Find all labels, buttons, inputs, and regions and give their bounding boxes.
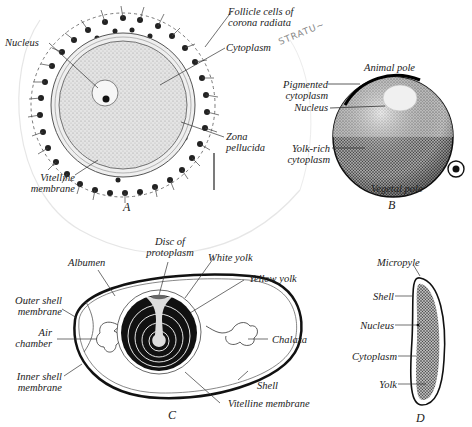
figure-b-egg bbox=[333, 75, 453, 197]
label-zona-pellucida: Zona pellucida bbox=[226, 131, 265, 153]
cytoplasm bbox=[59, 41, 187, 169]
figure-letter-d: D bbox=[416, 411, 425, 426]
figure-letter-a: A bbox=[123, 200, 130, 215]
label-vitelline-membrane-c: Vitelline membrane bbox=[228, 398, 310, 409]
label-outer-shell-membrane: Outer shell membrane bbox=[0, 295, 62, 317]
label-nucleus-a: Nucleus bbox=[5, 37, 39, 48]
label-white-yolk: White yolk bbox=[208, 252, 253, 263]
label-yellow-yolk: Yellow yolk bbox=[249, 273, 297, 284]
label-vitelline-membrane-a: Vitelline membrane bbox=[20, 172, 75, 194]
label-shell-d: Shell bbox=[345, 291, 394, 302]
label-pigmented-cytoplasm: Pigmented cytoplasm bbox=[270, 79, 328, 101]
nucleus bbox=[383, 85, 417, 111]
label-air-chamber: Air chamber bbox=[0, 327, 52, 349]
disc-of-protoplasm bbox=[151, 295, 167, 299]
label-cytoplasm-a: Cytoplasm bbox=[226, 42, 271, 53]
nucleolus bbox=[103, 96, 110, 103]
actual-size-icon bbox=[448, 161, 464, 177]
figure-letter-c: C bbox=[168, 408, 176, 423]
label-vegetal-pole: Vegetal pole bbox=[371, 183, 423, 194]
label-disc-of-protoplasm: Disc of protoplasm bbox=[140, 236, 200, 258]
figure-d-egg bbox=[411, 278, 445, 405]
label-animal-pole: Animal pole bbox=[364, 62, 415, 73]
label-micropyle: Micropyle bbox=[377, 257, 420, 268]
figure-letter-b: B bbox=[388, 198, 395, 213]
label-nucleus-d: Nucleus bbox=[345, 320, 394, 331]
label-inner-shell-membrane: Inner shell membrane bbox=[0, 371, 62, 393]
label-shell-c: Shell bbox=[257, 380, 278, 391]
label-cytoplasm-d: Cytoplasm bbox=[340, 351, 397, 362]
label-yolk-rich-cytoplasm: Yolk-rich cytoplasm bbox=[270, 143, 330, 165]
label-follicle-cells: Follicle cells of corona radiata bbox=[228, 6, 293, 28]
label-albumen: Albumen bbox=[68, 257, 105, 268]
label-nucleus-b: Nucleus bbox=[270, 102, 328, 113]
label-chalaza: Chalaza bbox=[272, 334, 307, 345]
label-yolk-d: Yolk bbox=[345, 379, 397, 390]
